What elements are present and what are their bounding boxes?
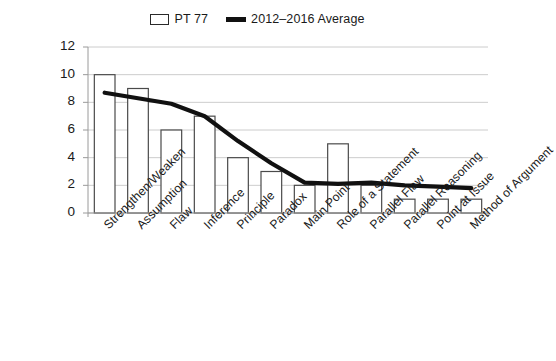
x-category-label: Flaw: [167, 204, 195, 232]
